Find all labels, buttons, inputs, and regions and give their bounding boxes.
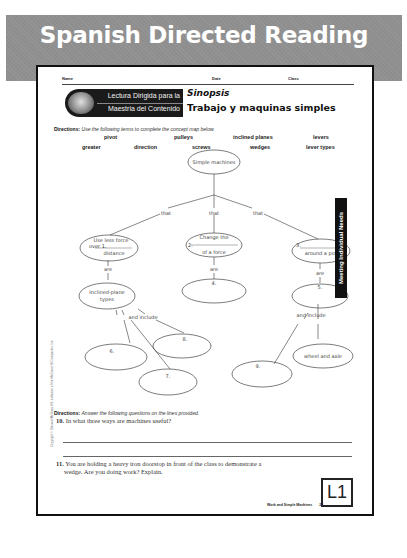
copyright-notice: Copyright © Glencoe/McGraw-Hill, a divis… (50, 340, 54, 447)
connector-that-2: that (209, 210, 219, 216)
page-number: 23 (319, 503, 323, 507)
connector-are-2: are (210, 266, 218, 272)
answer-line-10a[interactable] (63, 442, 352, 443)
connector-are-3: are (316, 270, 324, 276)
node-7-label: 7. (166, 373, 171, 379)
node-1-line-3: distance (103, 250, 124, 256)
directions-text: Answer the following questions on the li… (82, 410, 200, 416)
node-6-label: 6. (110, 348, 115, 354)
connector-and-include-1: and include (128, 314, 157, 320)
node-9 (232, 361, 292, 387)
node-inclined-line-2: types (100, 296, 114, 303)
question-text: In what three ways are machines useful? (66, 417, 171, 424)
root-label: Simple machines (193, 159, 236, 166)
connector-that-3: that (253, 210, 263, 216)
question-text: You are holding a heavy iron doorstop in… (65, 460, 261, 467)
side-tab-label: Meeting Individual Needs (338, 212, 344, 284)
banner-title: Spanish Directed Reading (6, 22, 402, 48)
question-10: 10. In what three ways are machines usef… (56, 417, 171, 425)
connector-and-include-2: and include (296, 312, 325, 318)
level-badge: L1 (321, 478, 353, 507)
node-2-line-3: of a force (202, 249, 226, 255)
node-8-label: 8. (183, 336, 188, 342)
worksheet-page: Name Date Class Lectura Dirigida para la… (36, 65, 374, 516)
node-wheel-label: wheel and axle (304, 353, 342, 359)
answer-line-10b[interactable] (63, 456, 352, 457)
node-inclined-line-1: Inclined-plane (89, 289, 124, 296)
question-text-cont: wedge. Are you doing work? Explain. (56, 468, 163, 475)
concept-map: Simple machines that that that Use less … (38, 67, 372, 427)
question-number: 10. (56, 417, 64, 424)
side-tab: Meeting Individual Needs (335, 198, 347, 298)
node-3-line-1: 3. (296, 242, 301, 248)
node-4-label: 4. (212, 280, 217, 286)
connector-that-1: that (161, 210, 171, 216)
node-9-label: 9. (256, 363, 261, 369)
node-6 (85, 344, 147, 370)
directions-label: Directions: (54, 410, 80, 416)
directions-questions: Directions: Answer the following questio… (54, 410, 199, 416)
node-5-label: 5. (318, 284, 323, 290)
node-2-line-1: Change the (200, 234, 229, 241)
question-number: 11. (56, 460, 64, 467)
node-2-line-2: 2. (188, 242, 193, 248)
connector-are-1: are (104, 266, 112, 272)
question-11: 11. You are holding a heavy iron doorsto… (56, 460, 261, 476)
page-footer: Work and Simple Machines 23 (267, 503, 323, 507)
footer-text: Work and Simple Machines (267, 503, 312, 507)
node-1-line-2: over 1. (89, 243, 107, 249)
